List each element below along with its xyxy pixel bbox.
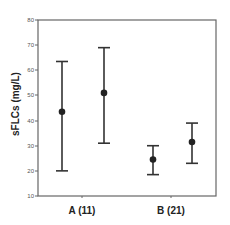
y-tick-10: 10 bbox=[27, 193, 34, 199]
category-label-a: A (11) bbox=[69, 205, 96, 216]
y-tick-70: 70 bbox=[27, 42, 34, 48]
y-axis-label: sFLCs (mg/L) bbox=[10, 72, 21, 136]
plot-frame bbox=[38, 20, 216, 196]
error-bar-1 bbox=[56, 61, 68, 170]
error-bar-chart: 10 20 30 40 50 60 70 80 sFLCs (mg/L) A (… bbox=[0, 0, 230, 225]
y-tick-30: 30 bbox=[27, 143, 34, 149]
y-tick-60: 60 bbox=[27, 67, 34, 73]
y-axis: 10 20 30 40 50 60 70 80 bbox=[27, 17, 38, 199]
error-bar-3 bbox=[147, 146, 159, 175]
y-tick-40: 40 bbox=[27, 118, 34, 124]
y-tick-20: 20 bbox=[27, 168, 34, 174]
error-bar-4 bbox=[186, 123, 198, 163]
y-tick-50: 50 bbox=[27, 92, 34, 98]
error-bars bbox=[56, 48, 198, 175]
error-bar-2 bbox=[98, 48, 110, 144]
category-label-b: B (21) bbox=[157, 205, 185, 216]
y-tick-80: 80 bbox=[27, 17, 34, 23]
